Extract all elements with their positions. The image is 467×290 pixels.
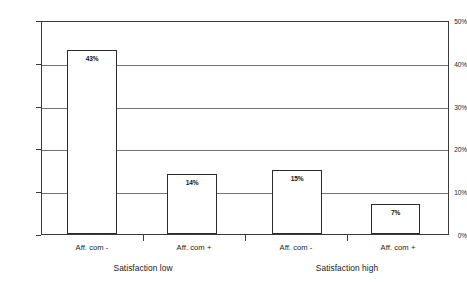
group-label-satisfaction-high: Satisfaction high bbox=[245, 263, 449, 274]
bar-2[interactable]: 14% bbox=[167, 174, 217, 234]
x-axis-tick-mark bbox=[143, 235, 144, 241]
bar-3[interactable]: 15% bbox=[272, 170, 322, 234]
y-axis-tick-mark bbox=[36, 235, 41, 236]
x-axis-category-label-3: Aff. com - bbox=[245, 243, 347, 253]
x-axis-tick-mark bbox=[347, 235, 348, 241]
bar-chart: 50% 40% 30% 20% 10% 0% 43% 14% 15% 7% bbox=[0, 0, 467, 290]
bar-1[interactable]: 43% bbox=[67, 50, 117, 234]
group-label-satisfaction-low: Satisfaction low bbox=[41, 263, 245, 274]
x-axis-category-label-4: Aff. com + bbox=[347, 243, 449, 253]
bar-value-label: 14% bbox=[168, 179, 216, 187]
bar-value-label: 43% bbox=[68, 55, 116, 63]
x-axis-category-label-1: Aff. com - bbox=[41, 243, 143, 253]
bar-value-label: 7% bbox=[372, 209, 419, 217]
bar-value-label: 15% bbox=[273, 175, 321, 183]
plot-area: 43% 14% 15% 7% bbox=[41, 21, 449, 235]
x-axis-category-label-2: Aff. com + bbox=[143, 243, 245, 253]
x-axis-tick-mark bbox=[245, 235, 246, 241]
bar-4[interactable]: 7% bbox=[371, 204, 420, 234]
